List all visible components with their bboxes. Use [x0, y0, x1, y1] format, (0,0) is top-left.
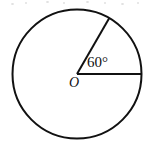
angle-measure-label: 60° — [87, 55, 108, 70]
scan-speck — [63, 2, 65, 4]
scan-speck — [11, 3, 14, 5]
scan-speck — [25, 2, 27, 4]
scan-speck — [121, 3, 124, 5]
scan-speck — [86, 1, 89, 3]
circle-diagram-svg — [0, 0, 153, 146]
scan-speck — [137, 2, 139, 4]
center-point-label: O — [69, 76, 79, 90]
scan-speck — [46, 1, 49, 3]
scan-speck — [104, 2, 106, 4]
geometry-figure: 60° O — [0, 0, 153, 146]
